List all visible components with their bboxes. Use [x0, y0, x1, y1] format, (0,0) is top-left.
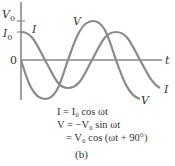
equation-voltage-cos: = V₀ cos (ωt + 90°): [66, 132, 148, 144]
figure-caption: (b): [75, 148, 88, 160]
ac-phase-diagram: V0 I0 0 t I V I V I = I₀ cos ωt V = −V₀ …: [0, 0, 175, 166]
equation-voltage: V = −V₀ sin ωt: [57, 119, 120, 131]
i0-label: I0: [2, 27, 12, 42]
t-axis-label: t: [165, 54, 170, 67]
voltage-curve-label-end: V: [141, 94, 150, 107]
zero-label: 0: [10, 54, 17, 67]
v0-label: V0: [2, 8, 15, 23]
equation-current: I = I₀ cos ωt: [57, 106, 108, 118]
current-curve-label-end: I: [163, 83, 169, 96]
voltage-curve-label-top: V: [73, 15, 82, 28]
current-curve-label-top: I: [31, 23, 37, 36]
